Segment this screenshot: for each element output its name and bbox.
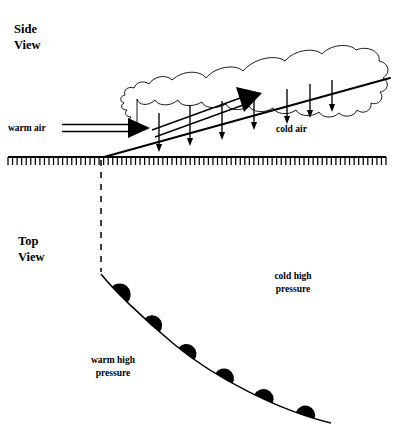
weather-front-diagram: Side View warm air (0, 0, 394, 447)
top-view-label-line1: Top (18, 234, 38, 248)
cold-air-label: cold air (276, 124, 308, 134)
side-view-label-line1: Side (14, 22, 37, 36)
warm-air-label: warm air (8, 123, 47, 133)
top-view-panel: Top View warm high pressure cold high pr… (18, 160, 331, 423)
cold-high-pressure-label-line1: cold high (274, 271, 312, 281)
warm-front-symbols (112, 279, 318, 419)
warm-high-pressure-label-line1: warm high (91, 355, 136, 365)
side-view-label-line2: View (14, 38, 41, 52)
top-view-label-line2: View (18, 250, 45, 264)
precipitation-arrow (156, 113, 162, 152)
diagram-canvas: Side View warm air (0, 0, 394, 447)
warm-high-pressure-label-line2: pressure (96, 368, 130, 378)
warm-front-curve (101, 274, 331, 423)
ground-hatching (8, 157, 386, 165)
side-view-panel: Side View warm air (8, 22, 390, 165)
cold-high-pressure-label-line2: pressure (276, 284, 310, 294)
